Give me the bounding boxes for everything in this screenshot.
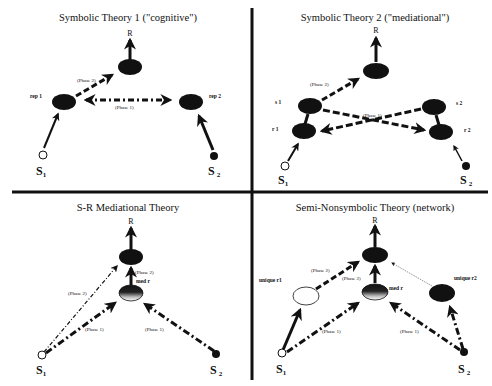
node-r2 — [429, 124, 453, 140]
arrow-s1 — [288, 144, 298, 161]
node-label-r2: r 2 — [464, 127, 471, 133]
node-label-unique-r1: unique r1 — [259, 277, 282, 283]
panel-symbolic-theory-1: Symbolic Theory 1 ("cognitive") R rep 1 … — [30, 12, 221, 179]
phase-label: (Phase 1) — [363, 113, 382, 118]
arrow-ur2-to-response — [392, 263, 432, 286]
panel-symbolic-theory-2: Symbolic Theory 2 ("mediational") R s 1 … — [272, 12, 473, 188]
panel-title: Semi-Nonsymbolic Theory (network) — [296, 202, 455, 214]
phase-label: (Phase 1) — [145, 327, 164, 332]
stimulus-s2-label: S2 — [210, 363, 223, 378]
phase-label: (Phase 1) — [85, 327, 104, 332]
response-label: R — [128, 217, 134, 226]
stimulus-s1-label: S1 — [36, 363, 47, 378]
panel-title: Symbolic Theory 1 ("cognitive") — [59, 12, 198, 24]
response-label: R — [127, 29, 133, 38]
node-label-med-r: med r — [136, 278, 150, 284]
stimulus-s2-dot — [462, 162, 470, 170]
stimulus-s1-label: S1 — [276, 362, 287, 377]
arrow-s2-to-ur2 — [450, 307, 463, 349]
node-med-r — [362, 284, 388, 300]
stimulus-s1-dot — [38, 351, 46, 359]
node-unique-r1 — [293, 287, 319, 305]
node-med-r — [119, 285, 143, 301]
panel-title: Symbolic Theory 2 ("mediational") — [301, 12, 450, 24]
stimulus-s2-dot — [460, 348, 468, 356]
arrow-s1-phase1 — [46, 303, 115, 353]
phase-label: (Phase 1) — [400, 329, 419, 334]
node-label-rep2: rep 2 — [209, 93, 221, 99]
panel-sr-mediational-theory: S-R Mediational Theory R (Phase 2) med r… — [36, 202, 223, 378]
phase-label: (Phase 2) — [68, 291, 87, 296]
node-label-s1: s 1 — [275, 99, 282, 105]
response-node — [119, 249, 143, 265]
phase-label: (Phase 2) — [77, 78, 96, 83]
link-s2-r2 — [436, 115, 439, 125]
node-label-s2: s 2 — [456, 100, 463, 106]
stimulus-s1-dot — [278, 349, 286, 357]
theory-diagram: Symbolic Theory 1 ("cognitive") R rep 1 … — [0, 0, 492, 386]
arrow-s1 — [44, 114, 58, 148]
phase-label: (Phase 2) — [135, 270, 154, 275]
stimulus-s2-dot — [212, 350, 220, 358]
phase-label: (Phase 2) — [310, 82, 329, 87]
response-label: R — [372, 216, 378, 225]
arrow-s2 — [454, 146, 462, 161]
arrow-s1-phase1 — [287, 303, 358, 352]
link-s1-r1 — [305, 114, 308, 124]
stimulus-s2-dot — [210, 152, 218, 160]
node-s1 — [298, 98, 322, 114]
phase-label: (Phase 2) — [342, 276, 361, 281]
arrow-s1-to-ur1 — [283, 310, 300, 350]
node-r1 — [292, 123, 316, 139]
stimulus-s1-dot — [281, 162, 289, 170]
phase-label: (Phase 2) — [311, 268, 330, 273]
node-rep1 — [52, 94, 76, 110]
response-node — [363, 63, 389, 79]
phase-label: (Phase 1) — [322, 329, 341, 334]
arrow-s2 — [199, 116, 213, 150]
stimulus-s1-dot — [39, 151, 47, 159]
panel-semi-nonsymbolic-theory: Semi-Nonsymbolic Theory (network) R (Pha… — [259, 202, 477, 377]
response-node — [118, 59, 142, 75]
node-label-unique-r2: unique r2 — [454, 275, 477, 281]
node-rep2 — [179, 94, 203, 110]
response-label: R — [373, 26, 379, 35]
node-label-r1: r 1 — [272, 126, 279, 132]
arrow-s1-phase2 — [44, 266, 117, 352]
node-s2 — [422, 99, 446, 115]
node-label-rep1: rep 1 — [30, 93, 42, 99]
stimulus-s1-label: S1 — [278, 173, 289, 188]
response-node — [362, 247, 388, 263]
stimulus-s1-label: S1 — [36, 164, 47, 179]
node-label-med-r: med r — [389, 285, 403, 291]
node-unique-r2 — [429, 284, 455, 302]
stimulus-s2-label: S2 — [458, 362, 471, 377]
stimulus-s2-label: S2 — [208, 164, 221, 179]
phase-label: (Phase 1) — [115, 105, 134, 110]
panel-title: S-R Mediational Theory — [77, 202, 180, 213]
stimulus-s2-label: S2 — [460, 173, 473, 188]
